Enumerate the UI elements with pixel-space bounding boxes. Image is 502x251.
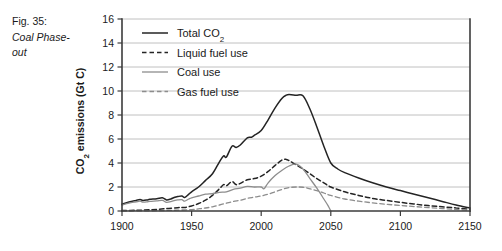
y-axis-title: CO2 emissions (Gt C) [74, 68, 91, 175]
grid-lines [122, 19, 470, 187]
series-line-total-co2 [122, 95, 470, 208]
y-tick-label: 10 [102, 85, 114, 97]
legend-label: Gas fuel use [177, 86, 239, 98]
y-tick-label: 6 [108, 133, 114, 145]
legend-label: Total CO2 [177, 27, 225, 44]
line-chart: 0246810121416 190019502000205021002150 C… [0, 0, 502, 251]
figure-container: Fig. 35: Coal Phase-out 0246810121416 19… [0, 0, 502, 251]
x-axis-ticks: 190019502000205021002150 [110, 211, 482, 232]
chart-svg: 0246810121416 190019502000205021002150 C… [0, 0, 502, 251]
x-tick-label: 2000 [250, 220, 274, 232]
data-series [122, 95, 470, 211]
x-tick-label: 2150 [458, 220, 482, 232]
x-tick-label: 1900 [110, 220, 134, 232]
x-tick-label: 1950 [180, 220, 204, 232]
series-line-gas-fuel-use [122, 187, 470, 211]
y-tick-label: 0 [108, 205, 114, 217]
y-tick-label: 16 [102, 13, 114, 25]
x-tick-label: 2050 [319, 220, 343, 232]
y-tick-label: 4 [108, 157, 114, 169]
y-axis-title-text: CO2 emissions (Gt C) [74, 68, 91, 175]
y-axis-ticks: 0246810121416 [102, 13, 122, 217]
y-tick-label: 14 [102, 37, 114, 49]
legend-label: Liquid fuel use [177, 47, 248, 59]
x-tick-label: 2100 [389, 220, 413, 232]
series-line-liquid-fuel-use [122, 159, 470, 210]
y-tick-label: 8 [108, 109, 114, 121]
y-tick-label: 2 [108, 181, 114, 193]
chart-legend: Total CO2Liquid fuel useCoal useGas fuel… [142, 27, 248, 98]
y-tick-label: 12 [102, 61, 114, 73]
legend-label: Coal use [177, 66, 220, 78]
